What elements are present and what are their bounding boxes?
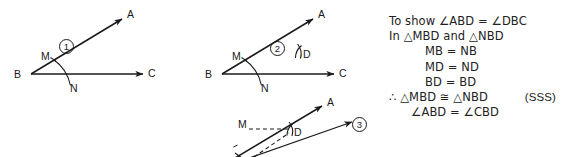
figure-step-3 (215, 106, 352, 157)
proof-text-block: To show ∠ABD = ∠DBC In △MBD and △NBD MB … (389, 14, 574, 120)
arc-mn-fig1 (54, 60, 71, 86)
label-a-fig1: A (127, 8, 134, 20)
label-a-fig3: A (327, 96, 334, 108)
ray-ba-fig1 (31, 19, 122, 74)
label-n-fig2: N (261, 82, 269, 94)
figure-3-labels: A M D (238, 96, 334, 138)
ray-bisector-bd-fig3 (215, 122, 352, 157)
label-n-fig1: N (70, 82, 78, 94)
label-m-fig2: M (232, 50, 241, 62)
tick-bm-fig3 (234, 145, 238, 147)
proof-line-congruence: ∴ △MBD ≅ △NBD (SSS) (389, 90, 574, 105)
label-d-fig2: D (303, 48, 311, 60)
proof-line-md-nd: MD = ND (389, 60, 574, 75)
label-a-fig2: A (318, 8, 325, 20)
ray-ba-fig3 (215, 106, 322, 157)
proof-rule-tag: (SSS) (525, 90, 574, 105)
label-b-fig2: B (205, 68, 212, 80)
proof-line-conclusion: ∠ABD = ∠CBD (389, 105, 574, 120)
proof-line-to-show: To show ∠ABD = ∠DBC (389, 14, 574, 29)
proof-line-in-triangles: In △MBD and △NBD (389, 29, 574, 44)
arc-mn-fig2 (245, 60, 262, 86)
svg-text:1: 1 (64, 41, 69, 52)
figure-1-labels: B A C M N (14, 8, 156, 94)
proof-line-mb-nb: MB = NB (389, 44, 574, 59)
step-badge-1: 1 (60, 40, 74, 54)
label-c-fig2: C (339, 67, 347, 79)
label-m-fig1: M (41, 50, 50, 62)
label-m-fig3: M (238, 118, 247, 130)
step-badge-3: 3 (353, 118, 367, 132)
label-d-fig3: D (294, 126, 302, 138)
svg-text:2: 2 (275, 43, 280, 54)
svg-text:3: 3 (357, 119, 362, 130)
step-badge-2: 2 (271, 42, 285, 56)
label-b-fig1: B (14, 68, 21, 80)
proof-congruence-statement: ∴ △MBD ≅ △NBD (389, 90, 488, 105)
label-c-fig1: C (148, 67, 156, 79)
proof-line-bd-bd: BD = BD (389, 75, 574, 90)
